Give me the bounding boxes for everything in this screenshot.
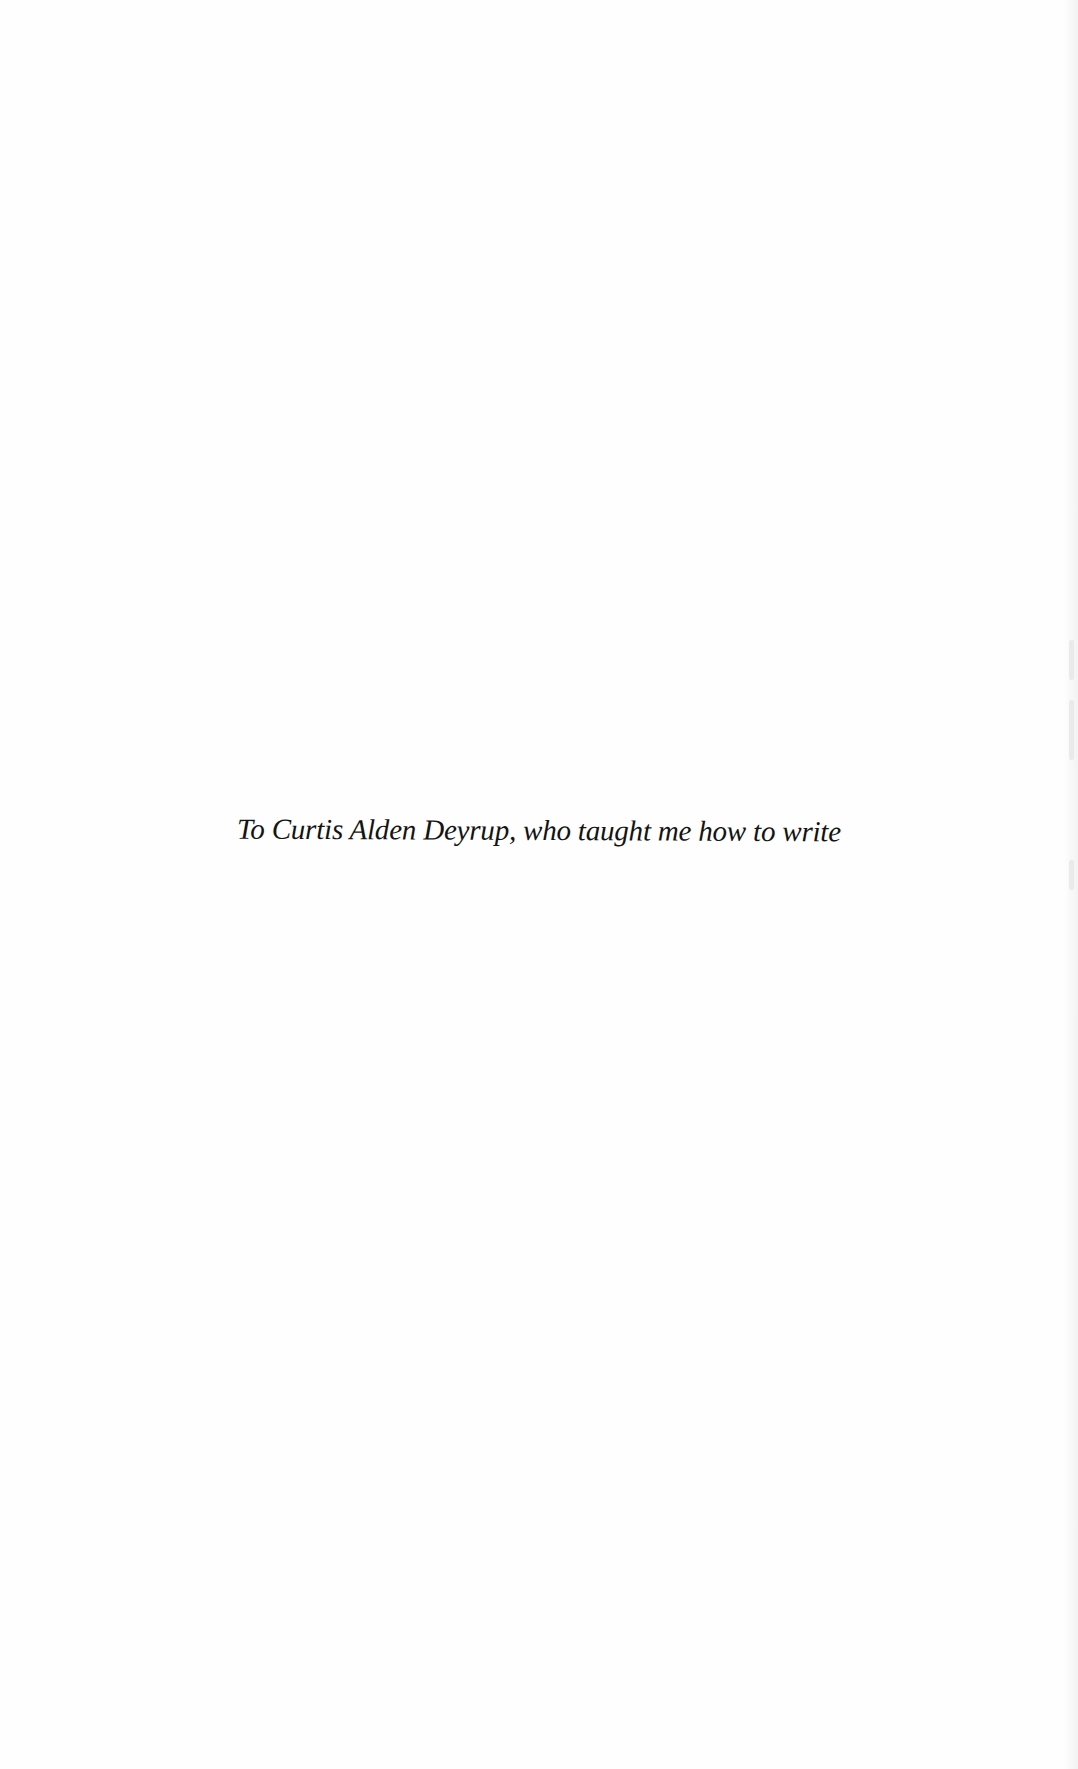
scan-artifact: [1069, 640, 1074, 680]
scan-artifact: [1069, 860, 1074, 890]
scan-artifact: [1069, 700, 1074, 760]
dedication-text: To Curtis Alden Deyrup, who taught me ho…: [0, 810, 1078, 851]
dedication-page: To Curtis Alden Deyrup, who taught me ho…: [0, 0, 1078, 1769]
